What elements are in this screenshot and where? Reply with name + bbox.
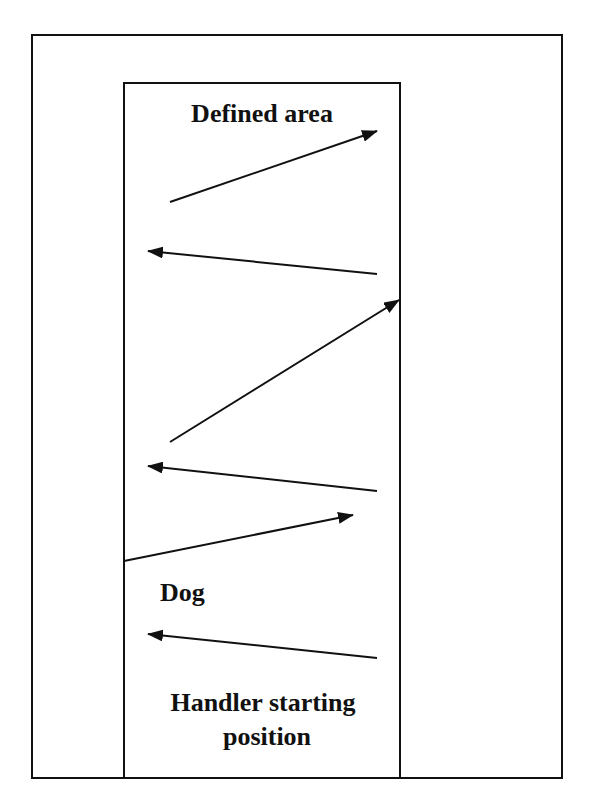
arrow-left-1: [148, 251, 377, 274]
arrow-right-2: [170, 300, 399, 442]
defined-area-label: Defined area: [191, 99, 333, 128]
arrow-left-3: [148, 634, 377, 658]
dog-label: Dog: [160, 578, 205, 607]
outer-field-boundary: [32, 35, 562, 778]
handler-label-line1: Handler starting: [170, 688, 355, 717]
arrow-right-3: [124, 515, 353, 561]
defined-area-boundary: [124, 83, 400, 778]
handler-label-line2: position: [223, 722, 312, 751]
arrow-right-1: [170, 131, 377, 202]
arrow-left-2: [148, 466, 377, 491]
search-pattern-diagram: Defined area Dog Handler starting positi…: [0, 0, 592, 810]
